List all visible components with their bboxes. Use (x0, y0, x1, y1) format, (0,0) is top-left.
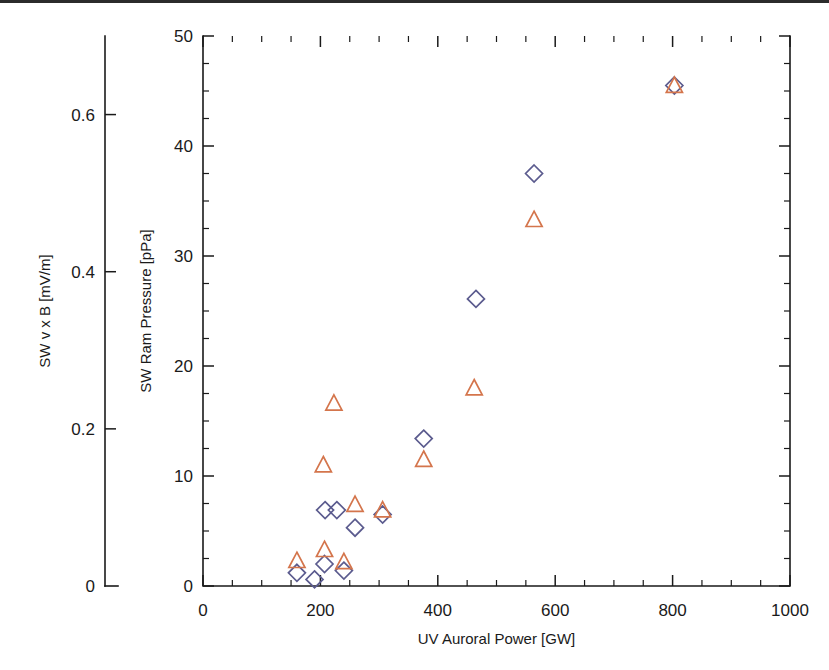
y2-tick-label: 0.2 (71, 420, 95, 439)
x-tick-label: 800 (658, 601, 686, 620)
data-point-triangle (666, 77, 682, 92)
y-tick-label: 50 (174, 27, 193, 46)
page-top-rule (0, 0, 829, 3)
data-point-diamond (317, 502, 334, 519)
data-point-diamond (415, 430, 432, 447)
data-point-diamond (347, 519, 364, 536)
data-point-triangle (375, 502, 391, 517)
figure-container: 02004006008001000UV Auroral Power [GW]01… (0, 0, 829, 670)
data-point-triangle (466, 380, 482, 395)
data-point-triangle (316, 541, 332, 556)
x-tick-label: 600 (541, 601, 569, 620)
data-point-diamond (328, 502, 345, 519)
series-triangle (289, 77, 683, 569)
y-tick-label: 30 (174, 247, 193, 266)
x-axis-title: UV Auroral Power [GW] (418, 630, 576, 647)
scatter-plot: 02004006008001000UV Auroral Power [GW]01… (0, 0, 829, 670)
y2-tick-label: 0.6 (71, 106, 95, 125)
data-point-diamond (467, 290, 484, 307)
y-tick-label: 20 (174, 357, 193, 376)
data-point-triangle (526, 211, 542, 226)
y-axis-title: SW Ram Pressure [pPa] (137, 229, 154, 392)
data-point-triangle (315, 457, 331, 472)
y-tick-label: 0 (184, 577, 193, 596)
x-tick-label: 0 (198, 601, 207, 620)
y-tick-label: 10 (174, 467, 193, 486)
y-tick-label: 40 (174, 137, 193, 156)
y2-tick-label: 0.4 (71, 263, 95, 282)
data-point-diamond (666, 77, 683, 94)
x-tick-label: 200 (306, 601, 334, 620)
plot-frame (203, 36, 790, 586)
data-point-diamond (316, 556, 333, 573)
data-point-triangle (416, 451, 432, 466)
x-tick-label: 1000 (771, 601, 809, 620)
data-point-triangle (326, 395, 342, 410)
y2-tick-label: 0 (86, 577, 95, 596)
x-tick-label: 400 (424, 601, 452, 620)
data-point-diamond (526, 165, 543, 182)
data-point-triangle (347, 496, 363, 511)
y2-axis-title: SW v x B [mV/m] (36, 254, 53, 367)
